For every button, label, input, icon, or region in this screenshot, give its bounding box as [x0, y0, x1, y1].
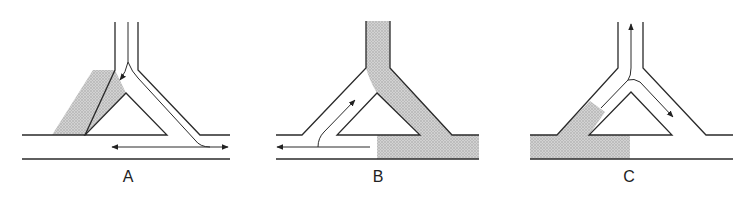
flow-arrow-icon: [628, 79, 673, 117]
flow-arrow-icon: [318, 100, 355, 147]
diagram-stage: A B C: [0, 0, 750, 199]
panel-b: [276, 21, 479, 159]
flow-arrow-icon: [120, 22, 128, 80]
panel-c: [530, 22, 733, 159]
shaded-region: [366, 21, 479, 159]
panel-a: [22, 22, 230, 159]
flow-arrow-icon: [601, 24, 631, 108]
channel-wall: [138, 22, 230, 135]
panel-label-a: A: [108, 168, 148, 186]
panel-label-b: B: [358, 168, 398, 186]
panel-label-c: C: [609, 168, 649, 186]
